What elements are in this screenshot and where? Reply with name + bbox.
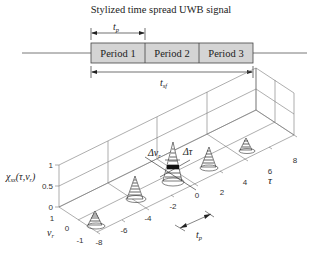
peak-tau-6 [239, 138, 255, 154]
main-lobe-marker [167, 165, 179, 169]
arrow-right-icon [139, 31, 145, 35]
uwb-ambiguity-diagram: Stylized time spread UWB signal Period 1… [0, 0, 321, 255]
tsf-label: tsf [160, 77, 168, 89]
tau-tick-0: 0 [195, 191, 200, 200]
tau-tick-2: 2 [220, 188, 225, 197]
nu-axis-label: νr [47, 227, 54, 239]
signal-timeline: Period 1 Period 2 Period 3 tp tsf [22, 21, 307, 89]
tau-tick-minus-6: -6 [120, 226, 128, 235]
peak-tau-0 [162, 142, 184, 186]
z-tick-1: 1 [49, 161, 54, 170]
z-tick-0: 0 [49, 203, 54, 212]
z-axis-label: χxx(τ,νr) [5, 171, 36, 183]
tau-tick-minus-2: -2 [169, 202, 177, 211]
tau-tick-8: 8 [293, 156, 298, 165]
delta-nu-label: Δνr [147, 147, 161, 159]
tp-spacing-annotation: tp [174, 210, 215, 241]
delta-tau-label: Δτ [182, 146, 193, 157]
tau-ticks [97, 135, 297, 234]
arrow-left-icon [91, 70, 97, 74]
nu-tick-1: 1 [50, 214, 55, 223]
tau-tick-minus-8: -8 [95, 238, 103, 247]
period-1-label: Period 1 [100, 48, 135, 59]
arrow-left-icon [91, 31, 97, 35]
nu-tick-minus-1: -1 [76, 236, 84, 245]
nu-tick-0: 0 [65, 224, 70, 233]
arrow-left-icon [180, 223, 187, 228]
tp-spacing-label: tp [196, 229, 203, 241]
tau-tick-4: 4 [243, 178, 248, 187]
period-3-label: Period 3 [208, 48, 243, 59]
tau-tick-minus-4: -4 [144, 214, 152, 223]
tp-dimension: tp [91, 21, 145, 40]
tp-label: tp [113, 21, 120, 33]
peak-tau-minus-6 [87, 211, 105, 229]
peak-tau-3 [200, 147, 218, 171]
ambiguity-peaks [87, 138, 255, 229]
period-2-label: Period 2 [154, 48, 189, 59]
diagram-title: Stylized time spread UWB signal [91, 4, 232, 15]
peak-tau-minus-3 [126, 176, 146, 203]
tau-axis-label: τ [268, 174, 273, 186]
arrow-right-icon [204, 214, 211, 219]
tsf-dimension: tsf [91, 66, 253, 89]
z-tick-0-5: 0.5 [42, 182, 54, 191]
